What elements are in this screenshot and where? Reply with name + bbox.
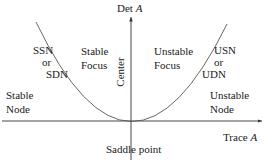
unstable-focus-line2: Focus (154, 59, 180, 71)
stable-node-line1: Stable (6, 89, 34, 101)
det-axis-label: Det A (117, 2, 142, 14)
or-label-left: or (42, 56, 51, 68)
unstable-node-line2: Node (210, 103, 234, 115)
stable-focus-line1: Stable (81, 45, 109, 57)
usn-label: USN (214, 44, 236, 56)
udn-label: UDN (202, 68, 226, 80)
trace-axis-label: Trace A (223, 131, 257, 143)
ssn-label: SSN (33, 44, 53, 56)
sdn-label: SDN (46, 68, 68, 80)
unstable-focus-line1: Unstable (154, 45, 193, 57)
or-label-right: or (214, 56, 223, 68)
center-label: Center (114, 57, 126, 87)
unstable-node-line1: Unstable (210, 89, 249, 101)
stable-node-line2: Node (6, 103, 30, 115)
stable-focus-line2: Focus (81, 59, 107, 71)
saddle-point-label: Saddle point (106, 143, 161, 155)
